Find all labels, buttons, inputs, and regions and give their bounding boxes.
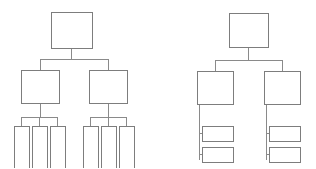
right-mid-node-2[interactable]	[265, 72, 301, 105]
left-leaf-node-6-rect[interactable]	[120, 127, 135, 169]
tree-diagrams-svg	[0, 0, 316, 168]
right-mid-node-2-rect[interactable]	[265, 72, 301, 105]
right-tree-diagram	[198, 14, 301, 163]
left-leaf-node-4[interactable]	[84, 127, 99, 169]
left-tree-diagram	[15, 13, 135, 169]
right-leaf-node-1-rect[interactable]	[203, 127, 234, 142]
left-leaf-node-3[interactable]	[51, 127, 66, 169]
left-root-node-rect[interactable]	[52, 13, 93, 49]
right-leaf-node-2-rect[interactable]	[203, 148, 234, 163]
left-leaf-node-3-rect[interactable]	[51, 127, 66, 169]
left-leaf-node-2-rect[interactable]	[33, 127, 48, 169]
right-leaf-node-4-rect[interactable]	[270, 148, 301, 163]
left-root-node[interactable]	[52, 13, 93, 49]
left-leaf-node-5[interactable]	[102, 127, 117, 169]
diagram-canvas	[0, 0, 316, 168]
diagram-groups	[15, 13, 301, 169]
right-mid-node-1-rect[interactable]	[198, 72, 234, 105]
left-leaf-node-1[interactable]	[15, 127, 30, 169]
left-mid-node-2[interactable]	[90, 71, 128, 104]
left-leaf-node-6[interactable]	[120, 127, 135, 169]
left-leaf-node-4-rect[interactable]	[84, 127, 99, 169]
left-leaf-node-2[interactable]	[33, 127, 48, 169]
right-leaf-node-2[interactable]	[203, 148, 234, 163]
left-mid-node-1[interactable]	[22, 71, 60, 104]
right-leaf-node-4[interactable]	[270, 148, 301, 163]
right-root-node-rect[interactable]	[230, 14, 269, 48]
left-leaf-node-1-rect[interactable]	[15, 127, 30, 169]
left-mid-node-1-rect[interactable]	[22, 71, 60, 104]
right-leaf-node-3[interactable]	[270, 127, 301, 142]
left-leaf-node-5-rect[interactable]	[102, 127, 117, 169]
right-leaf-node-1[interactable]	[203, 127, 234, 142]
left-mid-node-2-rect[interactable]	[90, 71, 128, 104]
right-leaf-node-3-rect[interactable]	[270, 127, 301, 142]
right-root-node[interactable]	[230, 14, 269, 48]
right-mid-node-1[interactable]	[198, 72, 234, 105]
